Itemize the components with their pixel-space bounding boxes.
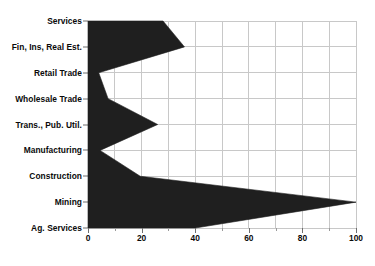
x-axis-tick-label: 60: [244, 234, 253, 242]
x-axis-tick-mark: [249, 228, 250, 233]
x-axis-tick-mark: [195, 228, 196, 233]
x-axis-tick-label: 40: [191, 234, 200, 242]
x-axis-tick-label: 80: [298, 234, 307, 242]
y-axis-tick-label: Construction: [29, 172, 82, 180]
x-axis-tick-label: 0: [86, 234, 91, 242]
y-axis-tick-label: Retail Trade: [34, 69, 82, 77]
y-axis-tick-label: Trans., Pub. Util.: [15, 120, 82, 128]
y-axis-labels: ServicesFin, Ins, Real Est.Retail TradeW…: [0, 21, 82, 228]
y-axis-tick-label: Wholesale Trade: [15, 94, 82, 102]
y-axis-tick-label: Ag. Services: [31, 224, 82, 232]
y-axis-tick-label: Fin, Ins, Real Est.: [12, 43, 82, 51]
x-axis-tick-mark: [302, 228, 303, 233]
x-axis-minor-tick-mark: [168, 228, 169, 231]
x-axis-tick-mark: [142, 228, 143, 233]
x-axis-minor-tick-mark: [329, 228, 330, 231]
y-axis-tick-label: Mining: [55, 198, 82, 206]
plot-area: [88, 21, 356, 228]
x-axis-tick-mark: [356, 228, 357, 233]
y-axis-tick-label: Manufacturing: [24, 146, 82, 154]
x-axis-tick-mark: [88, 228, 89, 233]
y-axis-tick-label: Services: [47, 17, 82, 25]
x-axis-tick-label: 20: [137, 234, 146, 242]
x-axis-labels: 020406080100: [88, 234, 356, 254]
x-axis-minor-tick-mark: [222, 228, 223, 231]
x-axis-tick-label: 100: [349, 234, 363, 242]
chart-container: ServicesFin, Ins, Real Est.Retail TradeW…: [0, 0, 375, 266]
x-axis-minor-tick-mark: [276, 228, 277, 231]
x-axis-minor-tick-mark: [115, 228, 116, 231]
area-series: [88, 21, 356, 228]
